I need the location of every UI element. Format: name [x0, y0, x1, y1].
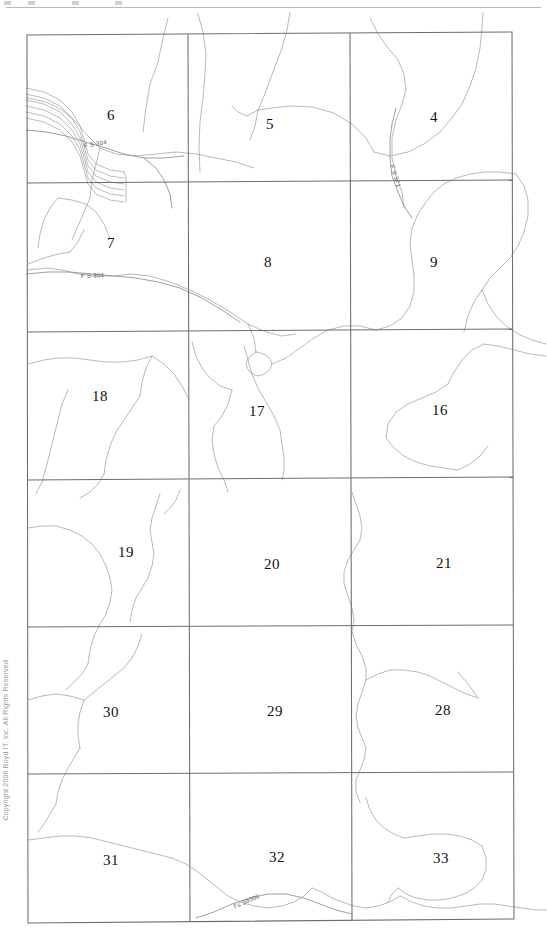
copyright-notice: Copyright 2006 Boyd IT, Inc. All Rights … [2, 660, 9, 821]
map-canvas[interactable]: 6 5 4 7 8 9 18 17 16 19 20 21 30 29 28 3… [0, 12, 547, 932]
section-label-33: 33 [433, 851, 449, 866]
section-label-19: 19 [118, 545, 134, 560]
chrome-dot-icon [4, 1, 11, 5]
road-label-fs304-south: F S 304 [81, 272, 104, 279]
section-label-6: 6 [107, 108, 115, 123]
section-label-17: 17 [249, 404, 265, 419]
section-label-7: 7 [107, 236, 115, 251]
map-page: 6 5 4 7 8 9 18 17 16 19 20 21 30 29 28 3… [0, 0, 547, 944]
section-label-30: 30 [103, 705, 119, 720]
road-network [26, 108, 412, 918]
section-label-8: 8 [264, 255, 272, 270]
section-label-4: 4 [430, 110, 438, 125]
section-label-20: 20 [264, 557, 280, 572]
chrome-dot-icon [72, 1, 79, 5]
header-divider [6, 7, 541, 8]
section-label-9: 9 [430, 255, 438, 270]
map-vector-layer [0, 12, 547, 932]
switchback-contours [26, 88, 126, 202]
chrome-dot-icon [28, 1, 35, 5]
section-label-28: 28 [435, 703, 451, 718]
stream-network [28, 12, 546, 910]
chrome-dot-icon [115, 1, 122, 5]
section-label-29: 29 [267, 704, 283, 719]
section-label-16: 16 [432, 403, 448, 418]
section-label-32: 32 [269, 850, 285, 865]
section-label-18: 18 [92, 389, 108, 404]
window-chrome [0, 0, 547, 10]
section-label-5: 5 [266, 117, 274, 132]
section-label-31: 31 [103, 853, 119, 868]
section-label-21: 21 [436, 556, 452, 571]
